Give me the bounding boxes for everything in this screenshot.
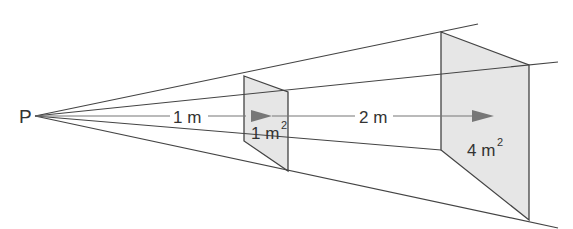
inverse-square-diagram: P 1 m 2 m 1 m 2 4 m 2 — [0, 0, 573, 229]
distance-label-2: 2 m — [359, 108, 387, 127]
area-label-1: 1 m — [251, 124, 279, 143]
point-label: P — [19, 106, 32, 127]
area-label-1-exponent: 2 — [281, 119, 287, 131]
large-plane — [441, 32, 529, 220]
area-label-2: 4 m — [467, 141, 495, 160]
distance-label-1: 1 m — [173, 108, 201, 127]
area-label-2-exponent: 2 — [497, 136, 503, 148]
